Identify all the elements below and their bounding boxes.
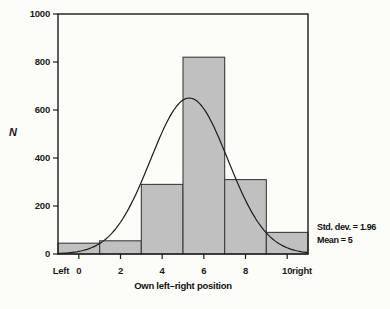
x-axis-tick-label: 10 [282, 265, 292, 276]
histogram-bar [141, 184, 183, 254]
histogram-bar [266, 232, 308, 254]
x-axis-tick-label: 8 [243, 265, 248, 276]
x-axis-left-end-label: Left [53, 265, 71, 276]
y-axis-title: N [9, 126, 17, 138]
y-axis-tick-label: 0 [45, 248, 50, 259]
histogram-bar [58, 243, 100, 254]
y-axis-tick-label: 1000 [30, 8, 50, 19]
x-axis-title: Own left–right position [58, 280, 308, 291]
histogram-bar [100, 241, 142, 254]
histogram-bar [183, 57, 225, 254]
x-axis-tick-label: 6 [201, 265, 206, 276]
histogram-figure: 020040060080010000246810Leftright N Own … [0, 0, 390, 309]
stats-annotation: Std. dev. = 1.96 Mean = 5 [317, 221, 376, 246]
x-axis-tick-label: 0 [76, 265, 81, 276]
mean-label: Mean = 5 [317, 234, 376, 247]
histogram-bar [225, 180, 267, 254]
x-axis-right-end-label: right [292, 265, 313, 276]
x-axis-tick-label: 2 [118, 265, 123, 276]
y-axis-tick-label: 400 [35, 152, 50, 163]
x-axis-tick-label: 4 [160, 265, 166, 276]
y-axis-tick-label: 600 [35, 104, 50, 115]
y-axis-tick-label: 800 [35, 56, 50, 67]
y-axis-tick-label: 200 [35, 200, 50, 211]
std-dev-label: Std. dev. = 1.96 [317, 221, 376, 234]
chart-canvas: 020040060080010000246810Leftright [0, 0, 390, 309]
